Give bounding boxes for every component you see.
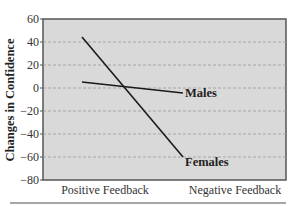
y-tick-label: −60 xyxy=(20,150,39,164)
series-label-females: Females xyxy=(185,155,229,169)
y-tick-label: −20 xyxy=(20,104,39,118)
y-tick-label: −40 xyxy=(20,127,39,141)
y-tick-label: 0 xyxy=(33,81,39,95)
x-category-label-negative: Negative Feedback xyxy=(189,183,281,197)
line-chart: 60 40 20 0 −20 −40 −60 −80 Changes in Co… xyxy=(0,0,296,206)
y-tick-label: 60 xyxy=(27,12,39,26)
y-tick-label: 40 xyxy=(27,35,39,49)
plot-area xyxy=(43,19,286,180)
y-tick-labels: 60 40 20 0 −20 −40 −60 −80 xyxy=(20,12,39,187)
y-tick-label: −80 xyxy=(20,173,39,187)
y-tick-label: 20 xyxy=(27,58,39,72)
y-axis-title: Changes in Confidence xyxy=(3,38,17,161)
series-label-males: Males xyxy=(185,86,217,100)
x-category-label-positive: Positive Feedback xyxy=(61,183,149,197)
